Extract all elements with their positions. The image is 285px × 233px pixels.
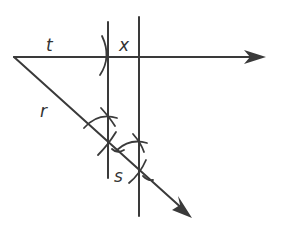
construction-diagram: t x r s <box>0 0 285 233</box>
label-x: x <box>118 35 130 55</box>
construction-arc-top <box>100 36 107 75</box>
label-t: t <box>46 35 54 55</box>
diagonal-ray <box>14 57 185 211</box>
label-r: r <box>40 101 48 121</box>
diagonal-arrowhead-icon <box>172 196 192 218</box>
label-s: s <box>114 166 123 186</box>
